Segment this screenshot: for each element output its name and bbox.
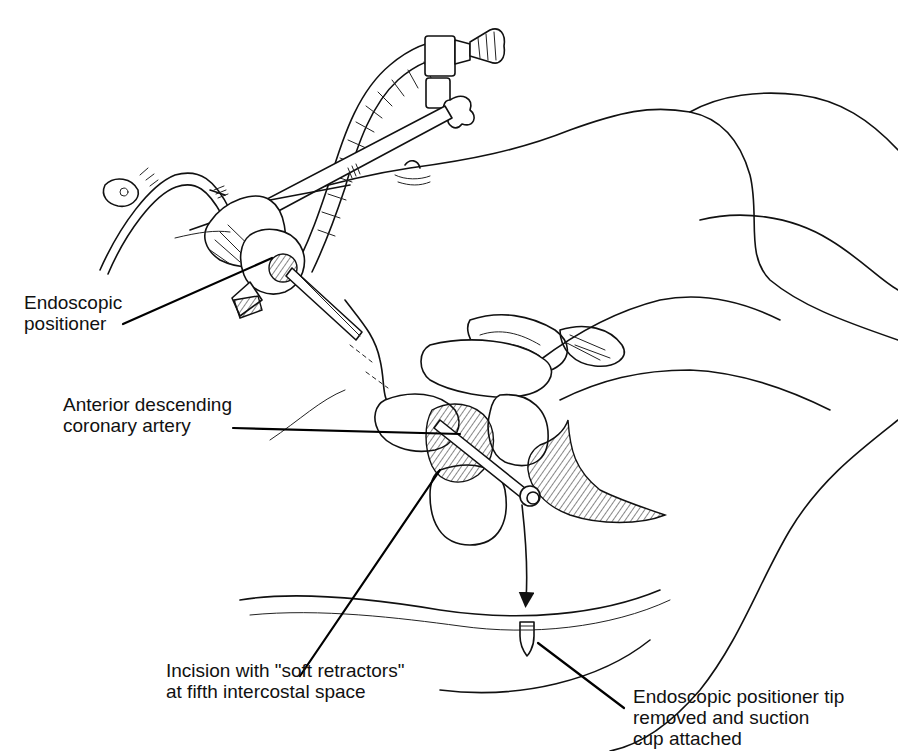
label-incision: Incision with "soft retractors" at fifth… — [166, 660, 404, 702]
label-line: Endoscopic positioner tip — [633, 686, 844, 707]
leader-line-incision — [300, 470, 440, 676]
illustration-canvas: Endoscopic positioner Anterior descendin… — [0, 0, 898, 751]
surgical-drawing — [0, 0, 898, 751]
label-line: cup attached — [633, 728, 844, 749]
label-line: Anterior descending — [63, 394, 232, 415]
incision-retractors — [375, 340, 665, 545]
label-line: at fifth intercostal space — [166, 681, 404, 702]
label-line: Incision with "soft retractors" — [166, 660, 404, 681]
label-line: removed and suction — [633, 707, 844, 728]
label-line: coronary artery — [63, 415, 232, 436]
label-positioner-tip: Endoscopic positioner tip removed and su… — [633, 686, 844, 749]
leader-line-tip — [538, 643, 624, 708]
label-line: positioner — [24, 313, 122, 334]
label-anterior-descending-coronary-artery: Anterior descending coronary artery — [63, 394, 232, 436]
label-line: Endoscopic — [24, 292, 122, 313]
label-endoscopic-positioner: Endoscopic positioner — [24, 292, 122, 334]
